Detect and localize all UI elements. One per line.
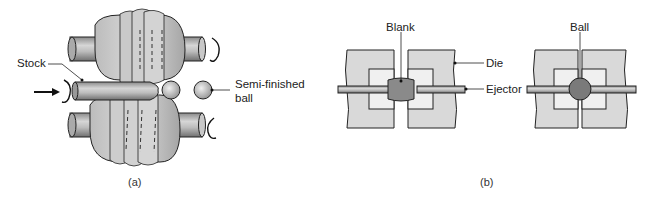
semi-finished-ball [194,81,212,99]
bottom-roll [68,91,206,166]
rotation-arrow-icon [208,118,216,138]
stock-bar [72,82,158,100]
ball-rolling-and-forging-diagram [0,0,653,201]
caption-a: (a) [128,176,141,188]
die-left-with-blank [338,32,484,128]
ball-between-rolls [162,81,180,99]
die-right-with-ball [527,32,636,128]
label-ejector: Ejector [486,83,522,96]
label-blank: Blank [386,21,415,34]
label-semi-finished-line1: Semi-finished [235,78,305,91]
rotation-arrow-icon [62,80,70,102]
caption-b: (b) [480,176,493,188]
label-stock: Stock [17,57,46,70]
label-ball: Ball [570,21,589,34]
label-semi-finished-line2: ball [235,92,253,105]
rotation-arrow-icon [210,38,219,61]
label-die: Die [486,57,503,70]
top-roll [68,9,206,85]
